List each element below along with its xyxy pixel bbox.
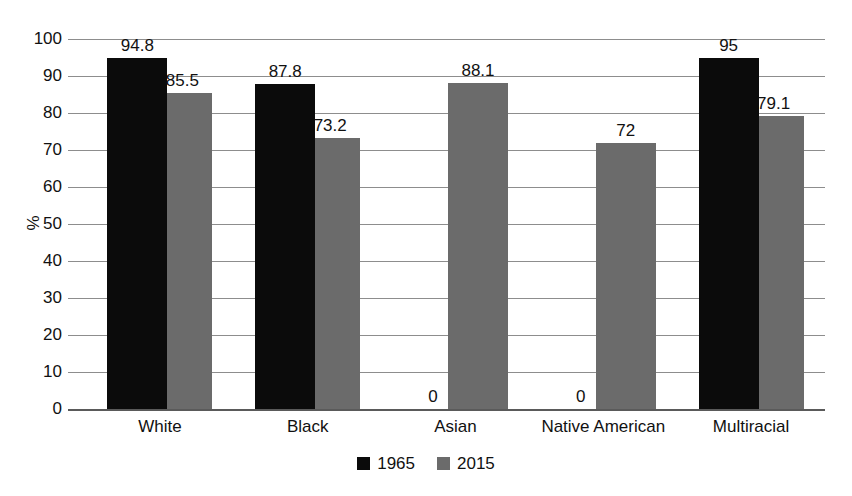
y-tick-mark — [68, 76, 86, 77]
data-label-2015-white: 85.5 — [142, 72, 222, 89]
data-label-2015-black: 73.2 — [290, 117, 370, 134]
y-tick-mark — [68, 187, 86, 188]
bar-2015-asian — [448, 83, 508, 409]
data-label-2015-asian: 88.1 — [438, 62, 518, 79]
y-tick-label: 80 — [16, 104, 62, 121]
y-tick-mark — [68, 150, 86, 151]
y-tick-label: 50 — [16, 215, 62, 232]
y-tick-mark — [68, 39, 86, 40]
plot-area: 94.885.587.873.2088.10729579.1 — [86, 39, 825, 409]
y-tick-mark — [68, 113, 86, 114]
data-label-2015-multiracial: 79.1 — [734, 95, 814, 112]
y-tick-label: 60 — [16, 178, 62, 195]
y-tick-label: 40 — [16, 252, 62, 269]
y-tick-label: 70 — [16, 141, 62, 158]
x-axis-label-multiracial: Multiracial — [677, 417, 825, 437]
x-axis-label-white: White — [86, 417, 234, 437]
bar-1965-white — [107, 58, 167, 409]
x-axis-line — [86, 409, 825, 411]
bar-chart: % 1009080706050403020100 94.885.587.873.… — [0, 0, 852, 496]
data-label-1965-native-american: 0 — [541, 388, 621, 405]
y-tick-mark — [68, 335, 86, 336]
data-label-2015-native-american: 72 — [586, 122, 666, 139]
y-tick-label: 20 — [16, 326, 62, 343]
y-tick-label: 0 — [16, 400, 62, 417]
x-axis-label-black: Black — [234, 417, 382, 437]
legend-swatch-icon-1965 — [357, 457, 370, 470]
legend-swatch-icon-2015 — [437, 457, 450, 470]
legend-label-2015: 2015 — [457, 455, 495, 472]
data-label-1965-black: 87.8 — [245, 63, 325, 80]
legend-item-2015: 2015 — [437, 455, 495, 472]
y-tick-mark — [68, 372, 86, 373]
x-axis-label-asian: Asian — [382, 417, 530, 437]
y-tick-label: 10 — [16, 363, 62, 380]
x-axis-label-native-american: Native American — [529, 417, 677, 437]
y-tick-label: 30 — [16, 289, 62, 306]
legend-label-1965: 1965 — [377, 455, 415, 472]
data-label-1965-white: 94.8 — [97, 37, 177, 54]
legend-item-1965: 1965 — [357, 455, 415, 472]
y-tick-mark — [68, 224, 86, 225]
data-label-1965-multiracial: 95 — [689, 37, 769, 54]
y-tick-mark — [68, 261, 86, 262]
y-tick-mark — [68, 298, 86, 299]
bar-2015-native-american — [596, 143, 656, 409]
y-tick-mark — [68, 409, 86, 411]
data-label-1965-asian: 0 — [393, 388, 473, 405]
y-tick-label: 90 — [16, 67, 62, 84]
y-tick-label: 100 — [16, 30, 62, 47]
chart-legend: 19652015 — [0, 455, 852, 472]
